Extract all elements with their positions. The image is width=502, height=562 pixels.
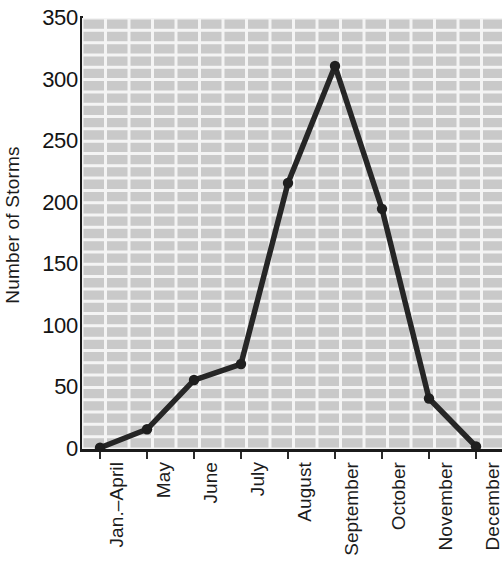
x-tick-label: September [343,462,361,556]
plot-area [82,18,502,449]
y-tick-label: 50 [26,376,78,398]
x-tick-mark [146,452,148,459]
x-tick-mark [240,452,242,459]
x-tick-label: July [249,462,267,496]
x-tick-mark [99,452,101,459]
x-tick-mark [193,452,195,459]
x-tick-label: May [155,462,173,498]
x-axis-line [80,449,502,452]
storm-line-chart: Number of Storms 050100150200250300350 J… [0,0,502,562]
y-axis-title-label: Number of Storms [2,146,24,303]
y-tick-label: 100 [26,315,78,337]
x-tick-label: November [437,462,455,550]
x-tick-mark [475,452,477,459]
x-tick-label: December [484,462,502,550]
x-tick-mark [381,452,383,459]
y-tick-label: 300 [26,69,78,91]
x-tick-label: October [390,462,408,530]
x-tick-label: August [296,462,314,522]
x-tick-mark [287,452,289,459]
y-tick-label: 150 [26,253,78,275]
y-tick-label: 200 [26,192,78,214]
x-tick-label: Jan.–April [108,462,126,548]
x-tick-mark [334,452,336,459]
x-tick-label: June [202,462,220,504]
y-tick-label: 350 [26,7,78,29]
x-tick-mark [428,452,430,459]
y-axis-tick-labels: 050100150200250300350 [22,0,78,470]
y-tick-label: 0 [26,438,78,460]
y-tick-label: 250 [26,130,78,152]
data-series-line [82,18,502,449]
